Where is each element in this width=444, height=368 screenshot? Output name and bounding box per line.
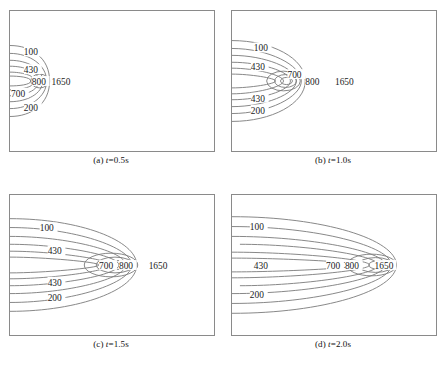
contour-label-800: 800 xyxy=(305,77,319,87)
contour-label-100: 100 xyxy=(40,223,54,233)
contour-label-800: 800 xyxy=(32,77,46,87)
contour-label-1650: 1650 xyxy=(335,77,354,87)
caption-prefix-b: (b) xyxy=(315,155,326,165)
contour-label-700: 700 xyxy=(99,261,113,271)
contour-label-700: 700 xyxy=(11,89,25,99)
caption-prefix-d: (d) xyxy=(315,339,326,349)
contour-plot-a: 100 430 800 1650 700 200 xyxy=(10,11,214,151)
contour-label-100: 100 xyxy=(250,222,264,232)
contour-label-800: 800 xyxy=(119,261,133,271)
contour-label-1650: 1650 xyxy=(52,77,71,87)
plot-frame-d: 100 430 700 800 1650 200 xyxy=(231,194,437,336)
caption-value-d: =2.0s xyxy=(331,339,351,349)
panel-caption-a: (a) t=0.5s xyxy=(0,155,222,165)
contour-label-700: 700 xyxy=(287,70,301,80)
panel-b: 100 430 700 800 1650 430 200 (b) t=1 xyxy=(222,0,444,184)
caption-prefix-a: (a) xyxy=(93,155,103,165)
caption-prefix-c: (c) xyxy=(93,339,103,349)
contour-label-700: 700 xyxy=(326,261,340,271)
panel-d: 100 430 700 800 1650 200 (d) t=2.0s xyxy=(222,184,444,368)
panel-caption-c: (c) t=1.5s xyxy=(0,339,222,349)
contour-label-800: 800 xyxy=(345,261,359,271)
contour-label-200: 200 xyxy=(24,103,38,113)
panel-caption-b: (b) t=1.0s xyxy=(222,155,444,165)
contour-plot-b: 100 430 700 800 1650 430 200 xyxy=(232,11,436,151)
plot-frame-c: 100 430 700 800 1650 430 200 xyxy=(9,194,215,336)
caption-value-b: =1.0s xyxy=(331,155,351,165)
caption-value-a: =0.5s xyxy=(108,155,128,165)
contour-label-430-upper: 430 xyxy=(48,246,62,256)
contour-figure: 100 430 800 1650 700 200 (a) t=0.5s xyxy=(0,0,444,368)
contour-plot-c: 100 430 700 800 1650 430 200 xyxy=(10,195,214,335)
contour-label-100: 100 xyxy=(24,47,38,57)
contour-label-430: 430 xyxy=(254,261,268,271)
panel-c: 100 430 700 800 1650 430 200 (c) t=1 xyxy=(0,184,222,368)
caption-value-c: =1.5s xyxy=(108,339,128,349)
contour-label-430: 430 xyxy=(24,65,38,75)
contour-label-200: 200 xyxy=(48,293,62,303)
contour-label-1650: 1650 xyxy=(149,261,168,271)
panel-a: 100 430 800 1650 700 200 (a) t=0.5s xyxy=(0,0,222,184)
contour-label-100: 100 xyxy=(254,43,268,53)
contour-label-430-lower: 430 xyxy=(251,94,265,104)
contour-label-200: 200 xyxy=(251,106,265,116)
contour-labels-d: 100 430 700 800 1650 200 xyxy=(250,221,397,300)
contour-plot-d: 100 430 700 800 1650 200 xyxy=(232,195,436,335)
contour-label-430-lower: 430 xyxy=(48,278,62,288)
plot-frame-b: 100 430 700 800 1650 430 200 xyxy=(231,10,437,152)
contour-label-430-upper: 430 xyxy=(251,62,265,72)
contour-label-200: 200 xyxy=(250,290,264,300)
contour-label-1650: 1650 xyxy=(375,261,394,271)
panel-caption-d: (d) t=2.0s xyxy=(222,339,444,349)
plot-frame-a: 100 430 800 1650 700 200 xyxy=(9,10,215,152)
